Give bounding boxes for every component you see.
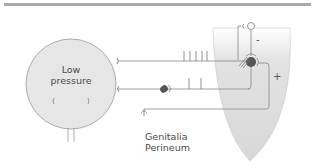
spinal-neuron-icon — [246, 57, 256, 67]
genitalia-perineum-label: Genitalia Perineum — [145, 120, 205, 153]
efferent-activity-ticks — [189, 78, 201, 89]
excitatory-sign: + — [273, 71, 281, 82]
bladder-label: Low pressure — [46, 64, 96, 86]
bladder-label-text: Low pressure — [50, 64, 91, 86]
ganglion-neuron-icon — [159, 84, 170, 94]
genitalia-receptor-icon — [141, 110, 147, 116]
urethra — [68, 128, 74, 142]
afferent-activity-ticks — [184, 51, 207, 61]
inhibitory-interneuron-icon — [248, 23, 255, 30]
afferent-receptor-icon — [117, 58, 119, 64]
inhibitory-sign: - — [256, 34, 260, 45]
genitalia-label-text: Genitalia Perineum — [145, 131, 190, 153]
spinal-cord — [213, 28, 290, 161]
